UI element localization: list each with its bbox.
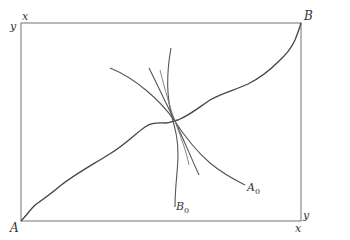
label-b0: B0 bbox=[175, 200, 189, 215]
label-bottom-right-x: x bbox=[295, 222, 302, 235]
label-bottom-right-y: y bbox=[302, 209, 310, 222]
label-top-left-x: x bbox=[22, 10, 29, 23]
indifference-curve-extra-2 bbox=[160, 70, 189, 165]
label-b-corner: B bbox=[303, 9, 313, 23]
edgeworth-box-diagram: x y B A y x B0 A0 bbox=[0, 0, 350, 240]
label-a0: A0 bbox=[246, 181, 260, 196]
indifference-curve-b0 bbox=[168, 48, 178, 207]
label-a-corner: A bbox=[9, 221, 19, 235]
label-top-left-y: y bbox=[9, 20, 17, 33]
